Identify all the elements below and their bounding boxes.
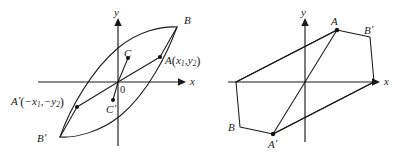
right-diagram-group <box>228 18 380 142</box>
right-point-aprime-dot <box>271 132 275 136</box>
left-point-bprime-letter: B <box>37 132 44 144</box>
right-point-a-dot <box>335 28 339 32</box>
right-point-aprime-label: A' <box>268 139 277 150</box>
left-point-aprime-dot <box>75 105 79 109</box>
left-point-b-label: B <box>184 15 191 26</box>
left-diagram-group <box>38 18 186 146</box>
left-point-a-coord-y: y <box>188 54 193 66</box>
right-point-b-letter: B <box>228 121 235 133</box>
geometry-figure-sheet: x y 0 B B' C C' A(x1,y2) A'(−x1,−y2) x y… <box>0 0 407 159</box>
left-point-a-label: A(x1,y2) <box>165 54 201 67</box>
left-point-a-paren-open: ( <box>172 54 176 68</box>
right-point-bprime-letter: B <box>364 24 371 36</box>
right-point-bprime-mark: ' <box>371 23 373 35</box>
left-point-aprime-paren-open: ( <box>20 95 24 109</box>
left-point-aprime-letter: A <box>11 95 18 107</box>
right-diagonal-lower-right <box>273 82 374 134</box>
right-point-bprime-label: B' <box>364 25 373 36</box>
left-point-a-letter: A <box>165 54 172 66</box>
figure-vector-canvas <box>0 0 407 159</box>
left-x-axis-label: x <box>190 76 195 87</box>
left-point-a-paren-close: ) <box>196 54 200 68</box>
left-point-cprime-mark: ' <box>114 102 116 114</box>
right-x-axis-label: x <box>384 76 389 87</box>
left-y-axis-arrowhead <box>114 18 121 26</box>
left-point-bprime-label: B' <box>37 133 46 144</box>
right-point-a-letter: A <box>331 15 338 27</box>
left-point-b-letter: B <box>184 14 191 26</box>
right-point-b-label: B <box>228 122 235 133</box>
left-point-c-letter: C <box>124 47 131 59</box>
right-point-aprime-letter: A <box>268 138 275 150</box>
left-segment-bprime-aprime <box>60 107 77 137</box>
left-point-a-coord-x-subscript: 1 <box>181 60 185 68</box>
left-point-c-label: C <box>124 48 131 59</box>
left-x-axis-arrowhead <box>178 78 186 85</box>
left-point-aprime-coord-x: −x <box>25 95 38 107</box>
right-point-a-label: A <box>331 16 338 27</box>
left-point-cprime-letter: C <box>106 103 113 115</box>
right-y-axis-arrowhead <box>301 18 308 26</box>
left-point-aprime-coord-y: −y <box>44 95 57 107</box>
left-point-bprime-mark: ' <box>44 131 46 143</box>
left-point-aprime-coord-x-subscript: 1 <box>37 101 41 109</box>
left-origin-label: 0 <box>120 85 125 96</box>
left-segment-a-b <box>160 27 177 57</box>
right-diagonal-upper-left <box>236 30 337 82</box>
left-point-a-dot <box>158 55 162 59</box>
left-point-cprime-label: C' <box>106 104 116 115</box>
left-y-axis-label: y <box>114 7 119 18</box>
left-point-aprime-label: A'(−x1,−y2) <box>11 95 64 108</box>
left-point-aprime-paren-close: ) <box>60 95 64 109</box>
right-point-aprime-mark: ' <box>275 137 277 149</box>
left-segment-origin-c <box>118 58 128 82</box>
right-y-axis-label: y <box>301 7 306 18</box>
